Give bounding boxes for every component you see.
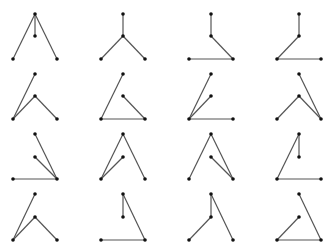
- graph-node: [33, 215, 37, 219]
- graph-node: [187, 117, 191, 121]
- graph-node: [121, 215, 125, 219]
- graph-edge: [211, 194, 233, 240]
- graph-edge: [123, 194, 145, 240]
- graph-node: [297, 72, 301, 76]
- graph-edge: [123, 134, 145, 179]
- graph-node: [231, 57, 235, 61]
- tree-graph-cell: [275, 12, 323, 61]
- graph-node: [209, 192, 213, 196]
- graph-node: [297, 215, 301, 219]
- graph-node: [121, 192, 125, 196]
- graph-edge: [101, 134, 123, 179]
- graph-node: [121, 72, 125, 76]
- graph-edge: [189, 74, 211, 119]
- graph-node: [297, 132, 301, 136]
- graph-node: [121, 12, 125, 16]
- graph-node: [143, 177, 147, 181]
- graph-edge: [35, 134, 57, 179]
- graph-node: [99, 57, 103, 61]
- graph-edge: [123, 96, 145, 119]
- graph-edge: [101, 74, 123, 119]
- graph-edge: [13, 217, 35, 240]
- tree-graph-cell: [187, 132, 235, 181]
- graph-node: [33, 132, 37, 136]
- graph-edge: [35, 96, 57, 119]
- tree-graph-cell: [99, 192, 147, 242]
- graph-node: [99, 177, 103, 181]
- tree-graph-cell: [99, 72, 147, 121]
- graph-node: [319, 117, 323, 121]
- graph-node: [209, 34, 213, 38]
- graph-node: [55, 177, 59, 181]
- tree-graph-cell: [11, 192, 59, 242]
- graph-node: [231, 238, 235, 242]
- graph-node: [209, 12, 213, 16]
- graph-node: [143, 117, 147, 121]
- graph-edge: [13, 194, 35, 240]
- graph-node: [143, 57, 147, 61]
- graph-node: [297, 94, 301, 98]
- graph-node: [187, 57, 191, 61]
- graph-node: [33, 155, 37, 159]
- graph-node: [187, 177, 191, 181]
- graph-node: [121, 155, 125, 159]
- graph-node: [297, 192, 301, 196]
- graph-node: [33, 72, 37, 76]
- graph-node: [55, 238, 59, 242]
- graph-node: [11, 57, 15, 61]
- tree-graph-cell: [275, 192, 323, 242]
- graph-edge: [123, 36, 145, 59]
- graph-edge: [299, 194, 321, 240]
- graph-node: [319, 238, 323, 242]
- graph-node: [11, 117, 15, 121]
- tree-graph-grid: [0, 0, 332, 252]
- graph-edge: [277, 36, 299, 59]
- graph-edge: [35, 217, 57, 240]
- tree-graph-cell: [99, 12, 147, 61]
- graph-edge: [101, 36, 123, 59]
- graph-node: [187, 238, 191, 242]
- tree-graph-cell: [275, 132, 323, 181]
- graph-node: [231, 177, 235, 181]
- graph-edge: [299, 96, 321, 119]
- graph-node: [99, 238, 103, 242]
- graph-edge: [211, 134, 233, 179]
- graph-node: [275, 57, 279, 61]
- graph-node: [33, 192, 37, 196]
- graph-edge: [211, 36, 233, 59]
- graph-node: [121, 132, 125, 136]
- graph-edge: [211, 157, 233, 179]
- graph-edge: [189, 96, 211, 119]
- graph-node: [33, 94, 37, 98]
- tree-graph-cell: [11, 12, 59, 61]
- graph-node: [209, 155, 213, 159]
- tree-graph-cell: [187, 72, 235, 121]
- tree-graph-cell: [187, 192, 235, 242]
- graph-node: [231, 117, 235, 121]
- graph-node: [275, 117, 279, 121]
- graph-edge: [277, 96, 299, 119]
- graph-edge: [13, 14, 35, 59]
- graph-node: [99, 117, 103, 121]
- tree-graph-cell: [99, 132, 147, 181]
- graph-node: [209, 132, 213, 136]
- graph-node: [33, 34, 37, 38]
- graph-edge: [277, 217, 299, 240]
- graph-edge: [189, 134, 211, 179]
- graph-node: [297, 12, 301, 16]
- graph-node: [275, 177, 279, 181]
- graph-edge: [35, 14, 57, 59]
- graph-node: [121, 34, 125, 38]
- tree-graph-cell: [275, 72, 323, 121]
- tree-graph-cell: [187, 12, 235, 61]
- graph-edge: [299, 74, 321, 119]
- graph-node: [143, 238, 147, 242]
- graph-node: [319, 57, 323, 61]
- graph-edge: [277, 134, 299, 179]
- graph-edge: [189, 217, 211, 240]
- graph-edge: [13, 96, 35, 119]
- graph-edge: [13, 74, 35, 119]
- graph-node: [33, 12, 37, 16]
- graph-node: [319, 177, 323, 181]
- tree-graph-cell: [11, 132, 59, 181]
